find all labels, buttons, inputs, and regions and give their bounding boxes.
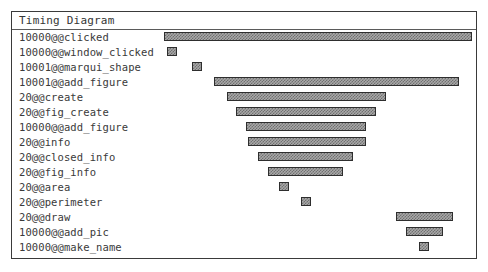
timing-row-label: 10000@@make_name [19, 241, 122, 253]
timing-row[interactable]: 10000@@window_clicked [12, 45, 476, 60]
timing-bar[interactable] [406, 227, 443, 236]
timing-row-label: 20@@closed_info [19, 151, 115, 163]
timing-bar[interactable] [246, 122, 366, 131]
timing-row[interactable]: 20@@fig_create [12, 105, 476, 120]
timing-bar[interactable] [167, 47, 177, 56]
page-title: Timing Diagram [19, 14, 115, 27]
timing-row-label: 10000@@add_figure [19, 121, 128, 133]
timing-row-label: 20@@perimeter [19, 196, 102, 208]
timing-bar[interactable] [268, 167, 343, 176]
timing-row-label: 20@@fig_create [19, 106, 109, 118]
timing-row-label: 20@@fig_info [19, 166, 96, 178]
timing-row[interactable]: 20@@closed_info [12, 150, 476, 165]
timing-row-label: 20@@create [19, 91, 83, 103]
timing-row[interactable]: 20@@info [12, 135, 476, 150]
timing-row-label: 20@@info [19, 136, 70, 148]
timing-row[interactable]: 10000@@clicked [12, 30, 476, 45]
timing-row-label: 10000@@window_clicked [19, 46, 154, 58]
timing-row-label: 10001@@add_figure [19, 76, 128, 88]
timing-row-label: 20@@draw [19, 211, 70, 223]
timing-row[interactable]: 10001@@marqui_shape [12, 60, 476, 75]
timing-row[interactable]: 10000@@add_figure [12, 120, 476, 135]
timing-row[interactable]: 10001@@add_figure [12, 75, 476, 90]
timing-bar[interactable] [279, 182, 289, 191]
timing-row[interactable]: 10000@@add_pic [12, 225, 476, 240]
timing-row[interactable]: 20@@draw [12, 210, 476, 225]
timing-row-label: 10000@@add_pic [19, 226, 109, 238]
timing-row-label: 20@@area [19, 181, 70, 193]
timing-row[interactable]: 20@@fig_info [12, 165, 476, 180]
timing-bar[interactable] [236, 107, 376, 116]
timing-bar[interactable] [192, 62, 202, 71]
timing-bar[interactable] [214, 77, 459, 86]
timing-bar[interactable] [248, 137, 366, 146]
timing-row[interactable]: 10000@@make_name [12, 240, 476, 255]
timing-row-label: 10001@@marqui_shape [19, 61, 141, 73]
timing-diagram-window: Timing Diagram 10000@@clicked 10000@@win… [11, 11, 477, 259]
timing-row[interactable]: 20@@perimeter [12, 195, 476, 210]
timing-bar[interactable] [396, 212, 453, 221]
timing-rows-container: 10000@@clicked 10000@@window_clicked 100… [12, 30, 476, 258]
window-title-bar: Timing Diagram [12, 12, 476, 30]
timing-bar[interactable] [164, 32, 472, 41]
timing-bar[interactable] [301, 197, 311, 206]
timing-row-label: 10000@@clicked [19, 31, 109, 43]
timing-row[interactable]: 20@@area [12, 180, 476, 195]
timing-bar[interactable] [419, 242, 429, 251]
timing-bar[interactable] [258, 152, 353, 161]
timing-bar[interactable] [227, 92, 386, 101]
timing-row[interactable]: 20@@create [12, 90, 476, 105]
